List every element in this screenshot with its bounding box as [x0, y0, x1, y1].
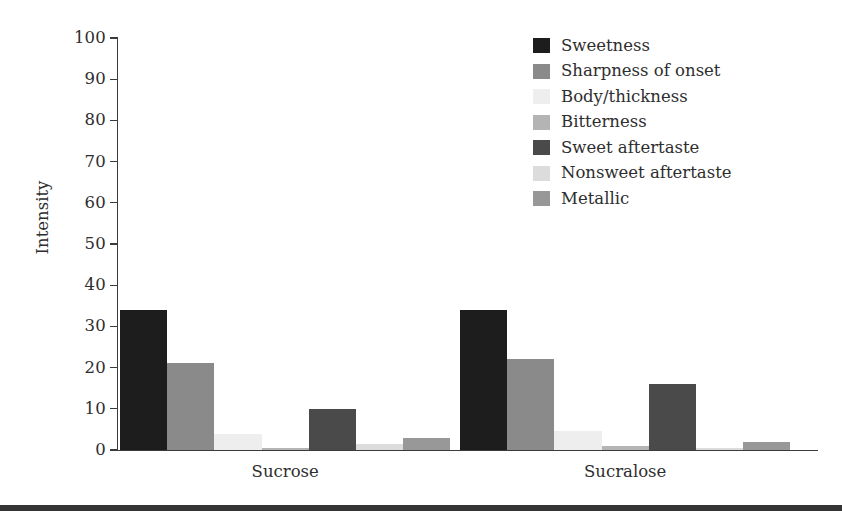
bar — [214, 434, 261, 450]
legend-swatch-icon — [533, 115, 550, 130]
y-axis-tick-label: 50 — [46, 236, 106, 253]
y-axis-tick — [110, 79, 118, 80]
y-axis-tick — [110, 408, 118, 409]
legend-item: Body/thickness — [533, 84, 823, 110]
bar — [309, 409, 356, 450]
legend-item: Sweet aftertaste — [533, 135, 823, 161]
legend-label: Nonsweet aftertaste — [561, 165, 732, 182]
y-axis-tick-label: 10 — [46, 401, 106, 418]
legend-item: Sharpness of onset — [533, 59, 823, 85]
y-axis-tick-label: 0 — [46, 442, 106, 459]
y-axis-tick-label: 100 — [46, 30, 106, 47]
bar — [356, 444, 403, 450]
y-axis-tick — [110, 367, 118, 368]
legend-label: Sweet aftertaste — [561, 140, 699, 157]
x-axis-group-label: Sucralose — [460, 462, 790, 481]
bar — [167, 363, 214, 450]
y-axis-tick-label: 80 — [46, 112, 106, 129]
legend-swatch-icon — [533, 64, 550, 79]
y-axis-tick-label: 30 — [46, 318, 106, 335]
legend-label: Sharpness of onset — [561, 63, 721, 80]
x-axis-group-label: Sucrose — [120, 462, 450, 481]
y-axis-tick — [110, 243, 118, 244]
bar — [554, 431, 601, 450]
chart-legend: SweetnessSharpness of onsetBody/thicknes… — [533, 33, 823, 212]
y-axis-tick — [110, 285, 118, 286]
legend-label: Body/thickness — [561, 89, 688, 106]
y-axis-tick-label: 40 — [46, 277, 106, 294]
legend-swatch-icon — [533, 140, 550, 155]
y-axis-tick-label: 90 — [46, 71, 106, 88]
y-axis-tick — [110, 120, 118, 121]
bar — [743, 442, 790, 450]
y-axis-tick — [110, 161, 118, 162]
legend-swatch-icon — [533, 38, 550, 53]
x-axis-line — [117, 450, 818, 451]
bar — [120, 310, 167, 450]
legend-label: Bitterness — [561, 114, 647, 131]
legend-swatch-icon — [533, 166, 550, 181]
y-axis-title: Intensity — [33, 148, 52, 288]
y-axis-tick — [110, 37, 118, 38]
legend-label: Sweetness — [561, 38, 650, 55]
bar-chart-figure: 0102030405060708090100 Intensity Sweetne… — [0, 0, 842, 525]
legend-item: Metallic — [533, 186, 823, 212]
bar — [262, 448, 309, 450]
y-axis-tick-label: 60 — [46, 195, 106, 212]
y-axis-tick-label: 20 — [46, 360, 106, 377]
legend-label: Metallic — [561, 191, 629, 208]
legend-item: Nonsweet aftertaste — [533, 161, 823, 187]
bar — [696, 448, 743, 450]
legend-item: Sweetness — [533, 33, 823, 59]
bar-group — [120, 38, 450, 450]
bottom-rule-divider — [0, 505, 842, 511]
y-axis-tick — [110, 202, 118, 203]
y-axis-tick — [110, 326, 118, 327]
y-axis-tick — [110, 449, 118, 450]
y-axis-tick-label: 70 — [46, 154, 106, 171]
bar — [403, 438, 450, 450]
bar — [649, 384, 696, 450]
legend-item: Bitterness — [533, 110, 823, 136]
bar — [460, 310, 507, 450]
legend-swatch-icon — [533, 89, 550, 104]
bar — [602, 446, 649, 450]
bar — [507, 359, 554, 450]
legend-swatch-icon — [533, 191, 550, 206]
